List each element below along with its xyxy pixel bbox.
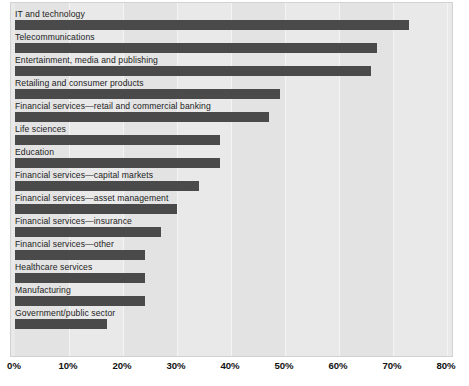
bar: [15, 273, 145, 283]
bar: [15, 135, 220, 145]
bar-category-label: Retailing and consumer products: [15, 77, 144, 89]
x-axis-tick-label: 30%: [166, 360, 185, 371]
bar: [15, 227, 161, 237]
bar-row: Financial services—retail and commercial…: [11, 100, 452, 123]
bar-chart: IT and technologyTelecommunicationsEnter…: [0, 0, 469, 386]
bar: [15, 112, 269, 122]
bar: [15, 181, 199, 191]
x-axis-tick-label: 60%: [328, 360, 347, 371]
bar: [15, 66, 371, 76]
bar-row: Manufacturing: [11, 284, 452, 307]
x-axis-tick-label: 40%: [220, 360, 239, 371]
bar-category-label: Financial services—insurance: [15, 215, 132, 227]
bar-category-label: IT and technology: [15, 8, 85, 20]
bar: [15, 158, 220, 168]
bar: [15, 250, 145, 260]
bar-row: Financial services—capital markets: [11, 169, 452, 192]
bar-rows-layer: IT and technologyTelecommunicationsEnter…: [11, 3, 452, 356]
bar: [15, 319, 107, 329]
bar-row: Education: [11, 146, 452, 169]
bar-category-label: Financial services—asset management: [15, 192, 168, 204]
bar: [15, 43, 377, 53]
bar-row: Financial services—other: [11, 238, 452, 261]
bar-category-label: Telecommunications: [15, 31, 95, 43]
bar-row: Retailing and consumer products: [11, 77, 452, 100]
bar-category-label: Financial services—other: [15, 238, 114, 250]
bar: [15, 20, 409, 30]
plot-area: IT and technologyTelecommunicationsEnter…: [10, 2, 453, 357]
x-axis-tick-label: 80%: [436, 360, 455, 371]
bar-row: Financial services—insurance: [11, 215, 452, 238]
bar-row: Telecommunications: [11, 31, 452, 54]
bar-row: Entertainment, media and publishing: [11, 54, 452, 77]
x-axis-tick-label: 20%: [112, 360, 131, 371]
bar: [15, 89, 280, 99]
bar-row: Life sciences: [11, 123, 452, 146]
bar-row: Healthcare services: [11, 261, 452, 284]
bar-row: Government/public sector: [11, 307, 452, 330]
bar-category-label: Entertainment, media and publishing: [15, 54, 158, 66]
x-axis-tick-label: 0%: [7, 360, 21, 371]
bar-category-label: Life sciences: [15, 123, 66, 135]
bar-row: IT and technology: [11, 8, 452, 31]
bar: [15, 296, 145, 306]
x-axis-tick-label: 10%: [58, 360, 77, 371]
bar-category-label: Healthcare services: [15, 261, 92, 273]
x-axis-tick-label: 50%: [274, 360, 293, 371]
bar-category-label: Financial services—retail and commercial…: [15, 100, 211, 112]
x-axis-tick-label: 70%: [382, 360, 401, 371]
bar-category-label: Government/public sector: [15, 307, 115, 319]
bar-category-label: Education: [15, 146, 54, 158]
bar-category-label: Financial services—capital markets: [15, 169, 153, 181]
bar: [15, 204, 177, 214]
x-axis: 0%10%20%30%40%50%60%70%80%: [10, 357, 453, 377]
bar-category-label: Manufacturing: [15, 284, 71, 296]
bar-row: Financial services—asset management: [11, 192, 452, 215]
